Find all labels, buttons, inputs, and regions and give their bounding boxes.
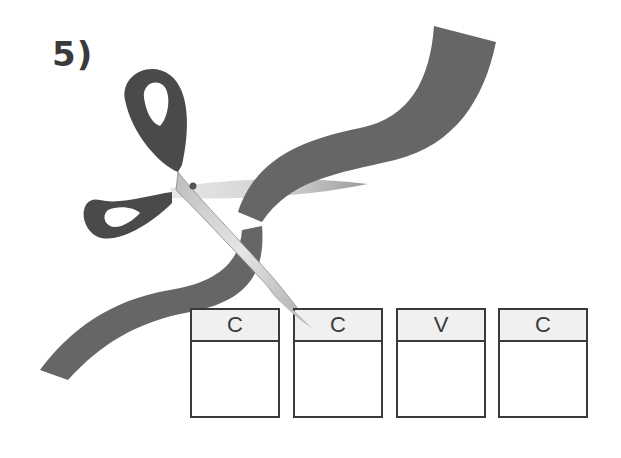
ribbon-upper-piece xyxy=(238,26,496,222)
letter-box: V xyxy=(396,308,486,418)
letter-box-answer-area[interactable] xyxy=(192,342,278,418)
letter-box-header: C xyxy=(295,310,381,342)
letter-box: C xyxy=(190,308,280,418)
letter-box-header: C xyxy=(192,310,278,342)
letter-box-answer-area[interactable] xyxy=(398,342,484,418)
letter-box-header: V xyxy=(398,310,484,342)
letter-box-header: C xyxy=(500,310,586,342)
worksheet-canvas: 5) xyxy=(0,0,621,458)
letter-box-answer-area[interactable] xyxy=(295,342,381,418)
letter-box-answer-area[interactable] xyxy=(500,342,586,418)
letter-box: C xyxy=(498,308,588,418)
letter-box: C xyxy=(293,308,383,418)
